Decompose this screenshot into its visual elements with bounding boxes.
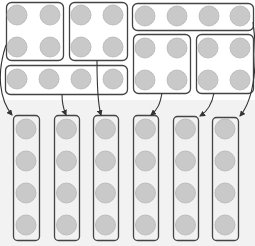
counter [135, 70, 155, 90]
column-2 [55, 116, 80, 241]
counter [176, 119, 196, 139]
column-3 [94, 116, 119, 241]
counter [96, 215, 116, 235]
counter [40, 5, 60, 25]
counter [215, 151, 235, 171]
group-3 [133, 4, 254, 31]
counter [199, 6, 219, 26]
counter [176, 183, 196, 203]
group-6 [6, 66, 128, 95]
column-5 [174, 117, 199, 241]
counter [136, 215, 156, 235]
counter [103, 69, 123, 89]
counter [103, 37, 123, 57]
counter [57, 215, 77, 235]
counter [215, 215, 235, 235]
counter [167, 70, 187, 90]
grouping-diagram [0, 0, 255, 246]
counter [39, 69, 59, 89]
arrow-group6-to-col2 [62, 94, 66, 115]
counter [167, 6, 187, 26]
counter [198, 70, 218, 90]
target-columns [14, 116, 239, 241]
diagram-canvas [0, 0, 255, 246]
column-4 [134, 116, 159, 241]
group-2 [70, 3, 128, 61]
source-groups [6, 3, 254, 95]
counter [7, 37, 27, 57]
arrow-group5-to-col5 [200, 93, 214, 116]
counter [96, 183, 116, 203]
counter [71, 69, 91, 89]
counter [167, 38, 187, 58]
counter [16, 183, 36, 203]
counter [71, 5, 91, 25]
counter [198, 38, 218, 58]
group-1 [7, 3, 64, 61]
counter [136, 183, 156, 203]
counter [215, 183, 235, 203]
counter [136, 119, 156, 139]
counter [7, 5, 27, 25]
counter [230, 6, 250, 26]
counter [96, 151, 116, 171]
counter [57, 119, 77, 139]
counter [71, 37, 91, 57]
counter [135, 38, 155, 58]
counter [57, 183, 77, 203]
counter [40, 37, 60, 57]
counter [96, 119, 116, 139]
column-1 [14, 116, 40, 241]
column-6 [213, 118, 239, 241]
counter [215, 119, 235, 139]
counter [135, 6, 155, 26]
counter [16, 119, 36, 139]
counter [176, 151, 196, 171]
counter [230, 70, 250, 90]
group-5 [197, 35, 254, 94]
arrow-group4-to-col4 [151, 93, 162, 115]
counter [57, 151, 77, 171]
counter [176, 215, 196, 235]
counter [7, 69, 27, 89]
counter [16, 215, 36, 235]
counter [16, 151, 36, 171]
counter [136, 151, 156, 171]
group-4 [134, 35, 191, 94]
counter [103, 5, 123, 25]
counter [230, 38, 250, 58]
